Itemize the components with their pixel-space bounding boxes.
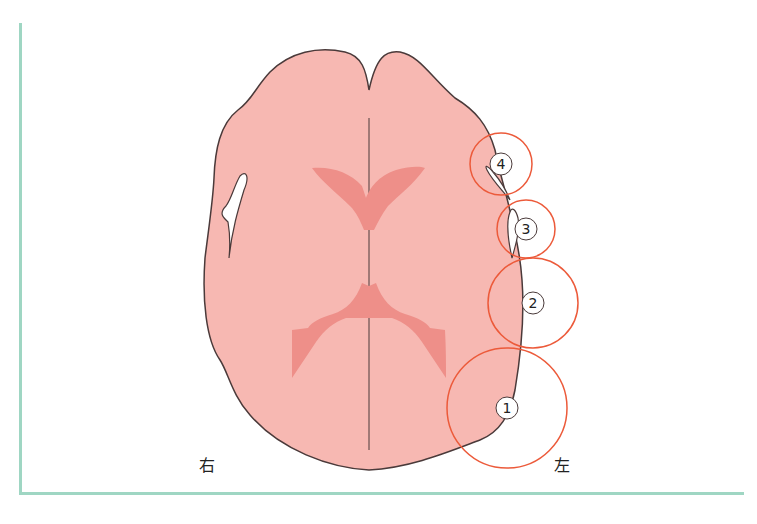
marker-2-label: 2 xyxy=(529,295,538,311)
marker-1-label: 1 xyxy=(503,400,512,416)
right-side-label: 右 xyxy=(199,458,215,474)
brain-outline xyxy=(204,50,523,470)
marker-3-label: 3 xyxy=(522,221,531,237)
left-side-label: 左 xyxy=(554,458,570,474)
marker-4-label: 4 xyxy=(497,156,506,172)
brain-diagram: 1 2 3 4 xyxy=(0,0,757,524)
